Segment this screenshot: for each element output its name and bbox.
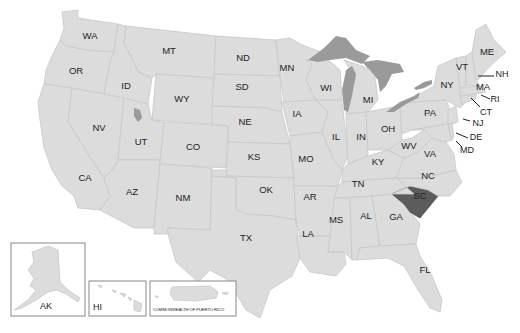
label-PR: COMMONWEALTH OF PUERTO RICO — [153, 307, 225, 312]
label-MI: MI — [363, 94, 374, 105]
contiguous-us — [38, 10, 506, 318]
label-VA: VA — [424, 148, 437, 159]
label-WY: WY — [174, 93, 190, 104]
label-DE: DE — [470, 132, 483, 142]
label-AL: AL — [360, 210, 372, 221]
label-TN: TN — [352, 178, 365, 189]
label-SC: SC — [413, 190, 426, 201]
label-NM: NM — [176, 192, 191, 203]
label-MT: MT — [162, 45, 176, 56]
label-RI: RI — [491, 94, 500, 104]
label-GA: GA — [389, 211, 403, 222]
label-MN: MN — [280, 62, 295, 73]
label-IN: IN — [356, 131, 366, 142]
label-LA: LA — [302, 228, 314, 239]
label-NJ: NJ — [473, 118, 484, 128]
label-NY: NY — [440, 79, 454, 90]
leader-NJ — [463, 119, 470, 121]
label-ME: ME — [480, 46, 494, 57]
label-CO: CO — [186, 141, 200, 152]
lake-superior — [308, 36, 370, 64]
label-IA: IA — [293, 108, 303, 119]
us-map: WA OR CA ID NV MT WY UT AZ CO NM ND SD N… — [0, 0, 520, 333]
inset-hawaii[interactable]: HI — [89, 281, 146, 316]
label-FL: FL — [419, 264, 430, 275]
label-NV: NV — [92, 122, 106, 133]
label-CT: CT — [480, 107, 492, 117]
leader-MD — [456, 141, 462, 147]
label-OK: OK — [259, 184, 273, 195]
label-MA: MA — [476, 81, 491, 92]
label-MS: MS — [329, 214, 343, 225]
label-OH: OH — [381, 123, 395, 134]
label-WI: WI — [320, 82, 332, 93]
leader-RI — [481, 95, 490, 99]
label-AK: AK — [40, 301, 52, 311]
label-HI: HI — [93, 302, 102, 312]
label-OR: OR — [69, 65, 83, 76]
label-AZ: AZ — [126, 186, 138, 197]
label-NC: NC — [421, 170, 435, 181]
label-KS: KS — [248, 151, 261, 162]
label-AR: AR — [303, 191, 316, 202]
label-WV: WV — [401, 140, 417, 151]
label-MD: MD — [460, 145, 474, 155]
label-NH: NH — [496, 69, 509, 79]
state-FL[interactable] — [356, 244, 442, 312]
label-SD: SD — [235, 81, 248, 92]
inset-alaska-box[interactable]: AK — [11, 243, 85, 316]
label-ID: ID — [121, 80, 131, 91]
label-MO: MO — [298, 153, 313, 164]
leader-DE — [456, 133, 468, 138]
label-CA: CA — [78, 172, 92, 183]
label-UT: UT — [135, 136, 148, 147]
inset-puerto-rico[interactable]: COMMONWEALTH OF PUERTO RICO — [150, 281, 236, 316]
label-KY: KY — [372, 156, 385, 167]
label-VT: VT — [456, 61, 468, 72]
label-NE: NE — [238, 116, 251, 127]
label-TX: TX — [240, 232, 253, 243]
label-PA: PA — [424, 107, 437, 118]
label-IL: IL — [332, 131, 340, 142]
label-ND: ND — [236, 52, 250, 63]
label-WA: WA — [83, 30, 99, 41]
